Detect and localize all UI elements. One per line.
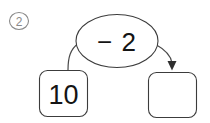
- diagram-canvas: 2 − 2 10: [0, 0, 210, 123]
- arrow-head-icon: [168, 61, 177, 71]
- output-answer-box[interactable]: [149, 73, 197, 118]
- worksheet-problem-diagram: 2 − 2 10: [0, 0, 210, 123]
- input-number-box: 10: [40, 71, 88, 117]
- problem-number-marker: 2: [10, 13, 29, 30]
- operation-bubble: − 2: [76, 15, 158, 68]
- operation-label: − 2: [97, 27, 137, 57]
- input-box-value: 10: [48, 80, 78, 110]
- problem-number-label: 2: [16, 15, 23, 29]
- output-box-outline[interactable]: [149, 73, 197, 118]
